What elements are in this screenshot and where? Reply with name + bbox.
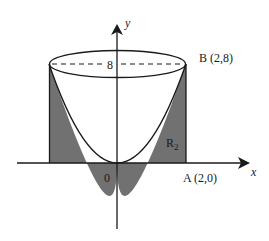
y-axis-label: y — [124, 16, 131, 30]
point-b-label: B (2,8) — [199, 51, 233, 65]
diagram-canvas: y x 0 8 B (2,8) A (2,0) R2 — [0, 0, 269, 241]
point-a-label: A (2,0) — [183, 171, 217, 185]
x-axis-label: x — [250, 165, 257, 179]
shaded-region-right — [117, 64, 186, 196]
origin-label: 0 — [104, 171, 110, 185]
region-subscript: 2 — [174, 142, 179, 152]
region-letter: R — [166, 136, 174, 150]
height-mark-label: 8 — [107, 58, 113, 72]
parabola-revolution-diagram: y x 0 8 B (2,8) A (2,0) R2 — [0, 0, 269, 241]
